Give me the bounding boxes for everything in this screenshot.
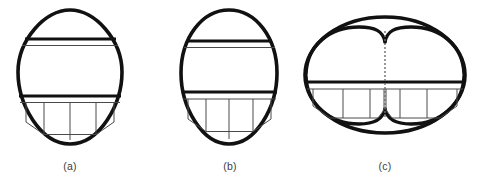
- caption-figure-b: (b): [200, 160, 260, 172]
- figure-diagram: [0, 0, 481, 184]
- caption-figure-c: (c): [355, 160, 415, 172]
- figure-panel: (a) (b) (c): [0, 0, 481, 184]
- caption-figure-a: (a): [40, 160, 100, 172]
